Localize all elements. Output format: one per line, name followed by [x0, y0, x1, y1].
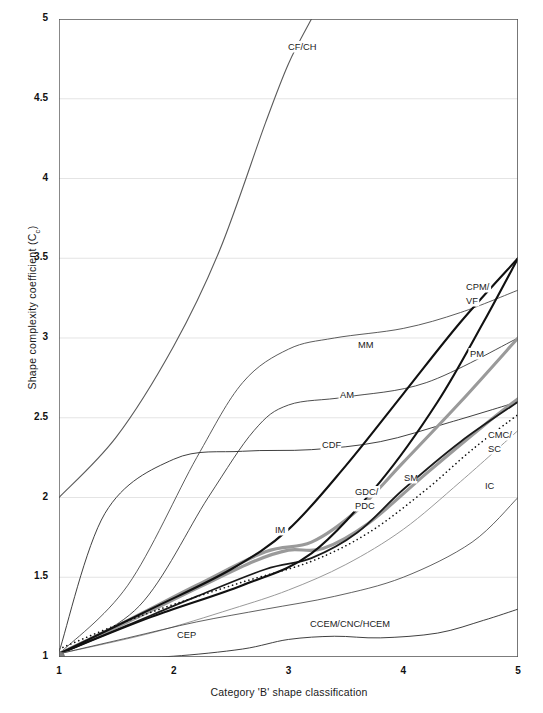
y-tick-3.5: 3.5 [22, 251, 48, 262]
y-tick-4: 4 [22, 172, 48, 183]
y-tick-4.5: 4.5 [22, 92, 48, 103]
curve-label-CF-CH: CF/CH [288, 42, 316, 52]
y-tick-2: 2 [22, 491, 48, 502]
series-line-MM [59, 290, 518, 654]
curve-label-CCEM-CNC-HCEM: CCEM/CNC/HCEM [310, 619, 390, 629]
y-tick-3: 3 [22, 331, 48, 342]
x-tick-3: 3 [274, 665, 304, 676]
curve-label-VF: VF [466, 296, 478, 306]
curve-label-SM: SM [404, 473, 418, 483]
curve-label-CPM-: CPM/ [466, 282, 490, 292]
curve-label-MM: MM [358, 340, 374, 350]
curve-label-IC: IC [485, 481, 495, 491]
chart-svg: CF/CHMMAMCDFGDC/PDCSMIMCPM/VFPMCMC/SCICC… [59, 19, 518, 657]
x-tick-1: 1 [44, 665, 74, 676]
y-axis-label: Shape complexity coefficient (Cc) [26, 178, 41, 438]
y-tick-5: 5 [22, 12, 48, 23]
chart-figure: Shape complexity coefficient (Cc) 11.522… [0, 0, 543, 713]
y-tick-1.5: 1.5 [22, 570, 48, 581]
curve-label-SC: SC [488, 444, 501, 454]
series-line-CDF [59, 402, 518, 652]
y-tick-2.5: 2.5 [22, 411, 48, 422]
curve-label-CEP: CEP [177, 630, 196, 640]
curve-label-CDF: CDF [322, 440, 341, 450]
y-axis-label-subscript: c [33, 229, 42, 233]
curve-label-PM: PM [470, 349, 484, 359]
plot-area: CF/CHMMAMCDFGDC/PDCSMIMCPM/VFPMCMC/SCICC… [59, 19, 518, 657]
series-line-GDC-PDC [59, 338, 518, 654]
curve-label-AM: AM [340, 390, 354, 400]
x-tick-2: 2 [159, 665, 189, 676]
curve-label-IM: IM [275, 525, 285, 535]
curve-label-PDC: PDC [355, 501, 375, 511]
curve-label-CMC-: CMC/ [488, 430, 512, 440]
y-axis-label-paren: ) [26, 226, 38, 230]
x-axis-label: Category 'B' shape classification [59, 686, 519, 698]
x-tick-4: 4 [388, 665, 418, 676]
series-line-AM [59, 338, 518, 654]
y-tick-1: 1 [22, 650, 48, 661]
series-line-IM [59, 399, 518, 654]
x-tick-5: 5 [503, 665, 533, 676]
curve-label-GDC-: GDC/ [355, 487, 379, 497]
